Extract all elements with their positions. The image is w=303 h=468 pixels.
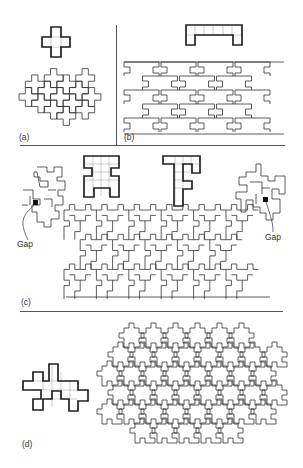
- gap-marker-left: [33, 200, 38, 205]
- polyomino-c-h-shape: [84, 156, 119, 197]
- polyomino-a-cross: [42, 27, 70, 57]
- polyomino-b-staple: [186, 25, 242, 45]
- failed-tiling-left: [22, 167, 65, 240]
- polyomino-c-t-shape: [163, 156, 200, 206]
- polyomino-d-irregular: [23, 364, 88, 411]
- gap-marker-right: [263, 197, 268, 202]
- tiling-b-interlock: [124, 62, 284, 134]
- tiling-c-combined: [64, 205, 270, 300]
- tiling-d-irregular: [97, 323, 287, 443]
- figure-canvas: [0, 0, 303, 468]
- failed-tiling-right: [236, 164, 285, 232]
- gap-pointer-right: [266, 202, 273, 232]
- tiling-a-crosses: [19, 69, 101, 126]
